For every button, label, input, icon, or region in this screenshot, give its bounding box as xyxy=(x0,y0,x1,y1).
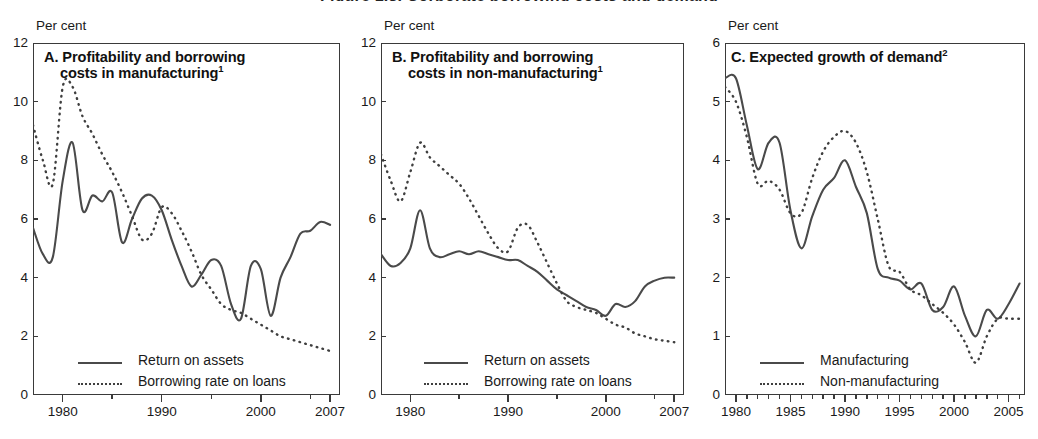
x-axis-tick-label: 2000 xyxy=(576,405,636,418)
y-axis-tick-label: 0 xyxy=(350,388,376,401)
series-line-return-on-assets xyxy=(381,210,674,316)
y-axis-tick-label: 6 xyxy=(350,212,376,225)
x-axis-tick-label: 1995 xyxy=(870,405,930,418)
x-axis-tick-mark xyxy=(507,395,509,402)
x-axis-tick-mark xyxy=(910,395,912,399)
y-axis-tick-label: 3 xyxy=(694,212,720,225)
y-axis-tick-label: 6 xyxy=(694,36,720,49)
x-axis-tick-mark xyxy=(1008,395,1010,402)
x-axis-tick-mark xyxy=(888,395,890,399)
y-axis-tick-mark xyxy=(381,336,386,338)
x-axis-tick-mark xyxy=(953,395,955,402)
x-axis-tick-mark xyxy=(801,395,803,399)
y-axis-tick-mark xyxy=(725,336,730,338)
y-axis-tick-label: 1 xyxy=(694,329,720,342)
y-axis-tick-label: 4 xyxy=(694,153,720,166)
x-axis-tick-label: 1980 xyxy=(380,405,440,418)
x-axis-tick-mark xyxy=(899,395,901,402)
x-axis-tick-mark xyxy=(790,395,792,402)
panel-c-units-label: Per cent xyxy=(728,18,778,33)
x-axis-tick-mark xyxy=(942,395,944,399)
x-axis-tick-label: 2000 xyxy=(924,405,984,418)
panel-b-plot-area xyxy=(381,43,684,395)
y-axis-tick-label: 4 xyxy=(2,271,28,284)
series-line-return-on-assets xyxy=(33,142,330,320)
series-line-manufacturing xyxy=(725,75,1020,337)
x-axis-tick-mark xyxy=(410,395,412,402)
x-axis-tick-mark xyxy=(1019,395,1021,399)
y-axis-tick-mark xyxy=(33,218,38,220)
x-axis-tick-mark xyxy=(605,395,607,402)
x-axis-tick-label: 2000 xyxy=(231,405,291,418)
legend-key-dotted-line xyxy=(78,383,122,385)
x-axis-tick-label: 2007 xyxy=(300,405,360,418)
y-axis-tick-label: 12 xyxy=(350,36,376,49)
legend-label: Manufacturing xyxy=(820,352,909,368)
y-axis-tick-label: 0 xyxy=(2,388,28,401)
x-axis-tick-mark xyxy=(62,395,64,402)
x-axis-tick-mark xyxy=(329,395,331,402)
x-axis-tick-label: 1980 xyxy=(706,405,766,418)
panel-b-units-label: Per cent xyxy=(384,18,434,33)
x-axis-tick-mark xyxy=(111,395,113,399)
legend-key-dotted-line xyxy=(424,383,468,385)
x-axis-tick-mark xyxy=(654,395,656,399)
y-axis-tick-mark xyxy=(725,218,730,220)
y-axis-tick-mark xyxy=(33,336,38,338)
y-axis-tick-label: 8 xyxy=(2,153,28,166)
x-axis-tick-mark xyxy=(673,395,675,402)
x-axis-tick-mark xyxy=(844,395,846,402)
y-axis-tick-mark xyxy=(725,101,730,103)
legend-label: Return on assets xyxy=(138,352,244,368)
x-axis-tick-mark xyxy=(735,395,737,402)
y-axis-tick-label: 10 xyxy=(350,95,376,108)
x-axis-tick-mark xyxy=(997,395,999,399)
y-axis-tick-mark xyxy=(725,277,730,279)
panel-a-plot-area xyxy=(33,43,340,395)
figure-running-title: Figure 1.8. Corporate borrowing costs an… xyxy=(0,0,1038,1)
x-axis-tick-mark xyxy=(877,395,879,399)
y-axis-tick-mark xyxy=(381,160,386,162)
y-axis-tick-label: 10 xyxy=(2,95,28,108)
y-axis-tick-mark xyxy=(33,160,38,162)
legend-label: Borrowing rate on loans xyxy=(138,373,286,389)
legend-key-solid-line xyxy=(424,362,468,364)
x-axis-tick-label: 1990 xyxy=(478,405,538,418)
x-axis-tick-label: 1985 xyxy=(760,405,820,418)
legend-label: Return on assets xyxy=(484,352,590,368)
y-axis-tick-label: 0 xyxy=(694,388,720,401)
legend-key-solid-line xyxy=(78,362,122,364)
y-axis-tick-mark xyxy=(381,277,386,279)
y-axis-tick-label: 2 xyxy=(350,329,376,342)
x-axis-tick-mark xyxy=(746,395,748,399)
panel-a-units-label: Per cent xyxy=(36,18,86,33)
legend-key-dotted-line xyxy=(760,383,804,385)
x-axis-tick-mark xyxy=(866,395,868,399)
y-axis-tick-mark xyxy=(381,218,386,220)
x-axis-tick-mark xyxy=(812,395,814,399)
x-axis-tick-mark xyxy=(822,395,824,399)
y-axis-tick-mark xyxy=(381,101,386,103)
x-axis-tick-mark xyxy=(833,395,835,399)
series-line-non-manufacturing xyxy=(725,87,1020,363)
x-axis-tick-label: 1990 xyxy=(815,405,875,418)
y-axis-tick-label: 4 xyxy=(350,271,376,284)
x-axis-tick-mark xyxy=(975,395,977,399)
x-axis-tick-mark xyxy=(921,395,923,399)
x-axis-tick-label: 1980 xyxy=(33,405,93,418)
y-axis-tick-label: 12 xyxy=(2,36,28,49)
legend-label: Non-manufacturing xyxy=(820,373,939,389)
x-axis-tick-mark xyxy=(855,395,857,399)
x-axis-tick-mark xyxy=(211,395,213,399)
x-axis-tick-mark xyxy=(986,395,988,399)
x-axis-tick-mark xyxy=(161,395,163,402)
x-axis-tick-mark xyxy=(458,395,460,399)
y-axis-tick-label: 8 xyxy=(350,153,376,166)
y-axis-tick-label: 2 xyxy=(694,271,720,284)
panel-c-plot-area xyxy=(725,43,1025,395)
x-axis-tick-mark xyxy=(556,395,558,399)
y-axis-tick-mark xyxy=(33,101,38,103)
x-axis-tick-mark xyxy=(964,395,966,399)
x-axis-tick-mark xyxy=(310,395,312,399)
x-axis-tick-mark xyxy=(779,395,781,399)
